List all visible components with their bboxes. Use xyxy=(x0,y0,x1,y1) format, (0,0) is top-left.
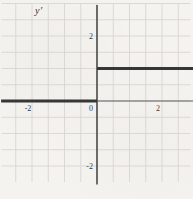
y-axis-label: y′ xyxy=(35,5,43,17)
graph-svg: -2022-2 xyxy=(0,0,193,199)
x-tick-label: 0 xyxy=(89,104,93,113)
y-tick-label: -2 xyxy=(86,162,93,171)
x-tick-label: 2 xyxy=(156,104,160,113)
step-function-graph: -2022-2 y′ xyxy=(0,0,193,199)
y-tick-label: 2 xyxy=(89,32,93,41)
x-tick-label: -2 xyxy=(25,104,32,113)
